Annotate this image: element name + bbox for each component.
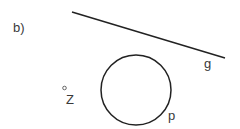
line-label: g xyxy=(204,57,211,70)
point-z-marker xyxy=(63,86,67,90)
point-label: Z xyxy=(66,93,74,106)
line-g xyxy=(72,12,225,58)
circle-p xyxy=(101,55,171,125)
part-label: b) xyxy=(13,21,25,34)
diagram-canvas: b) g Z p xyxy=(0,0,240,129)
circle-label: p xyxy=(168,109,175,122)
